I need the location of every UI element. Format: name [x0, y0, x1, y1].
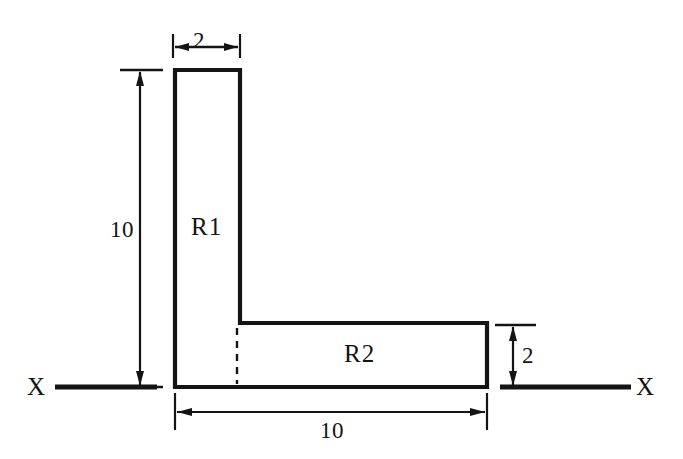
drawing-svg: [0, 0, 683, 459]
axis-label-right: X: [636, 374, 654, 399]
dimension-label-length-bottom: 10: [320, 419, 344, 442]
region-label-r2: R2: [344, 341, 375, 366]
axis-label-left: X: [27, 374, 45, 399]
dimension-label-width-top: 2: [193, 29, 205, 52]
region-label-r1: R1: [191, 214, 222, 239]
dimension-width-top: [173, 34, 240, 58]
dimension-label-thickness-right: 2: [522, 344, 534, 367]
dimension-label-height-left: 10: [110, 218, 134, 241]
technical-drawing-canvas: 2 10 10 2 R1 R2 X X: [0, 0, 683, 459]
